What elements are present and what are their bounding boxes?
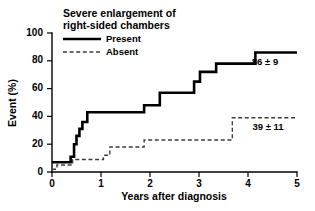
y-tick-label-100: 100 [26,27,43,38]
y-axis-title: Event (%) [6,79,18,127]
x-tick-label-5: 5 [294,178,300,189]
chart-container: 100 80 60 40 20 0 0 1 2 3 4 5 Years afte… [0,0,315,211]
x-tick-label-2: 2 [147,178,153,189]
x-tick-label-4: 4 [245,178,251,189]
x-axis-title: Years after diagnosis [121,190,227,202]
chart-plot-area: 100 80 60 40 20 0 0 1 2 3 4 5 Years afte… [0,0,315,211]
y-tick-label-20: 20 [32,138,44,149]
y-tick-label-60: 60 [32,82,44,93]
annotation-absent-value: 39 ± 11 [252,121,284,132]
legend-title-line-1: Severe enlargement of [63,7,176,19]
y-tick-label-40: 40 [32,110,44,121]
x-tick-label-3: 3 [196,178,202,189]
x-tick-label-1: 1 [98,178,104,189]
y-tick-label-80: 80 [32,54,44,65]
x-tick-label-0: 0 [49,178,55,189]
legend-label-absent: Absent [106,46,139,57]
legend-title-line-2: right-sided chambers [63,19,170,31]
y-tick-label-0: 0 [37,166,43,177]
annotation-present-value: 86 ± 9 [252,56,278,67]
legend-label-present: Present [106,33,142,44]
